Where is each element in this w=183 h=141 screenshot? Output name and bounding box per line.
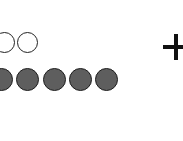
filled-circle xyxy=(16,68,39,91)
filled-circle xyxy=(0,68,13,91)
filled-circle xyxy=(69,68,92,91)
filled-circle xyxy=(43,68,66,91)
hollow-circle xyxy=(0,32,15,53)
hollow-circle xyxy=(17,32,38,53)
filled-circle xyxy=(95,68,118,91)
counting-figure xyxy=(0,0,183,141)
plus-icon xyxy=(163,34,183,60)
